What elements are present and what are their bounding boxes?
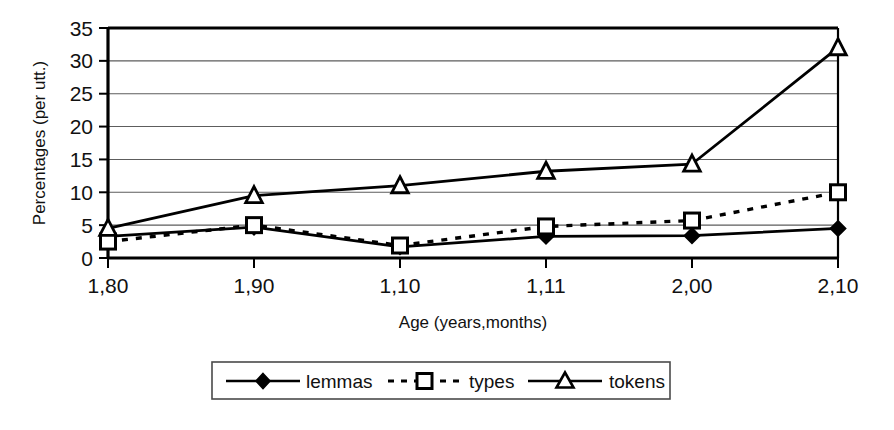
open-square-icon <box>417 374 432 389</box>
y-tick-label-10: 10 <box>70 181 93 204</box>
x-tick-label-5: 2,10 <box>818 274 859 297</box>
legend: lemmas types tokens <box>212 362 670 399</box>
data-point-types-1,11 <box>539 219 554 234</box>
y-tick-label-15: 15 <box>70 148 93 171</box>
data-point-types-1,10 <box>393 238 408 253</box>
data-point-types-2,10 <box>831 185 846 200</box>
y-tick-label-0: 0 <box>81 247 93 270</box>
y-axis-title: Percentages (per utt.) <box>30 61 49 225</box>
y-tick-label-30: 30 <box>70 49 93 72</box>
plot-background <box>108 28 838 258</box>
x-axis-title: Age (years,months) <box>399 313 547 332</box>
chart-figure: 0 5 10 15 20 25 30 35 1,80 1,90 1,10 1,1… <box>0 0 894 430</box>
y-tick-label-25: 25 <box>70 82 93 105</box>
y-tick-label-5: 5 <box>81 214 93 237</box>
data-point-types-1,90 <box>247 218 262 233</box>
data-point-types-2,00 <box>685 213 700 228</box>
y-tick-labels: 0 5 10 15 20 25 30 35 <box>70 17 93 270</box>
line-chart: 0 5 10 15 20 25 30 35 1,80 1,90 1,10 1,1… <box>0 0 894 430</box>
x-tick-label-3: 1,11 <box>526 274 565 297</box>
x-tick-label-4: 2,00 <box>672 274 713 297</box>
y-tick-label-35: 35 <box>70 17 93 40</box>
legend-label-types: types <box>469 371 514 392</box>
x-tick-label-2: 1,10 <box>380 274 421 297</box>
legend-label-tokens: tokens <box>609 371 665 392</box>
x-tick-labels: 1,80 1,90 1,10 1,11 2,00 2,10 <box>88 274 859 297</box>
legend-label-lemmas: lemmas <box>306 371 373 392</box>
x-tick-label-0: 1,80 <box>88 274 129 297</box>
x-tick-label-1: 1,90 <box>234 274 275 297</box>
y-tick-label-20: 20 <box>70 115 93 138</box>
